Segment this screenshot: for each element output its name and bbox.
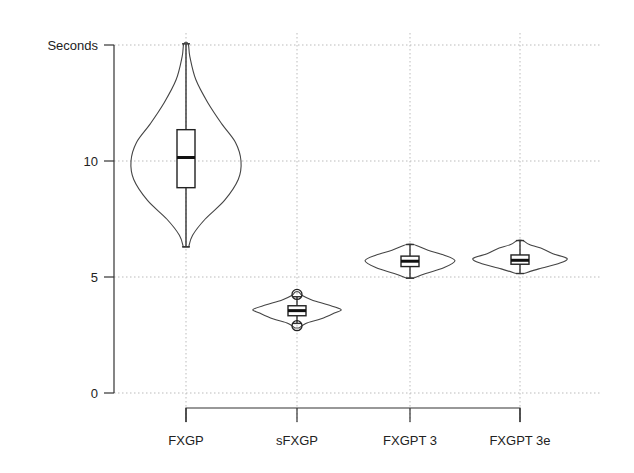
violin-group [365,244,455,278]
y-tick-label: 10 [84,154,98,169]
violin-group [473,240,567,273]
y-tick-label: Seconds [47,38,98,53]
x-ticks: FXGPsFXGPFXGPT 3FXGPT 3e [168,408,550,448]
violin-group [131,42,241,247]
violins [131,42,567,330]
violin-chart: 0510Seconds FXGPsFXGPFXGPT 3FXGPT 3e [0,0,634,473]
x-tick-label: sFXGP [276,433,318,448]
y-tick-label: 0 [91,386,98,401]
violin-group [253,289,341,330]
grid [114,33,600,425]
x-axis-line [186,408,520,422]
axes [114,45,520,422]
x-tick-label: FXGPT 3 [383,433,437,448]
x-tick-label: FXGPT 3e [489,433,550,448]
y-tick-label: 5 [91,270,98,285]
x-tick-label: FXGP [168,433,203,448]
y-ticks: 0510Seconds [47,38,114,401]
